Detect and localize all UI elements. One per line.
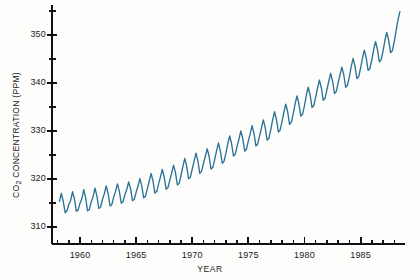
y-axis-tick-label: 340 <box>18 77 46 87</box>
x-axis-tick-label: 1975 <box>228 250 268 260</box>
x-axis-tick-label: 1980 <box>284 250 324 260</box>
x-axis-tick-label: 1985 <box>341 250 381 260</box>
y-axis-tick-label: 330 <box>18 125 46 135</box>
y-axis-title: CO2 CONCENTRATION (PPM) <box>11 55 21 215</box>
axes-group <box>47 5 405 244</box>
data-series-group <box>60 12 400 213</box>
co2-keeling-curve-chart: 310320330340350 196019651970197519801985… <box>0 0 420 280</box>
y-axis-title-subscript: 2 <box>15 180 22 184</box>
x-axis-tick-label: 1960 <box>60 250 100 260</box>
y-axis-tick-label: 350 <box>18 29 46 39</box>
y-axis-tick-label: 320 <box>18 173 46 183</box>
y-axis-tick-label: 310 <box>18 221 46 231</box>
y-axis-title-prefix: CO <box>11 185 21 198</box>
x-axis-tick-label: 1970 <box>172 250 212 260</box>
x-axis-tick-label: 1965 <box>116 250 156 260</box>
x-axis-title: YEAR <box>0 264 420 274</box>
chart-plot-area <box>0 0 420 280</box>
y-axis-title-suffix: CONCENTRATION (PPM) <box>11 72 21 180</box>
co2-series-line <box>60 12 400 213</box>
